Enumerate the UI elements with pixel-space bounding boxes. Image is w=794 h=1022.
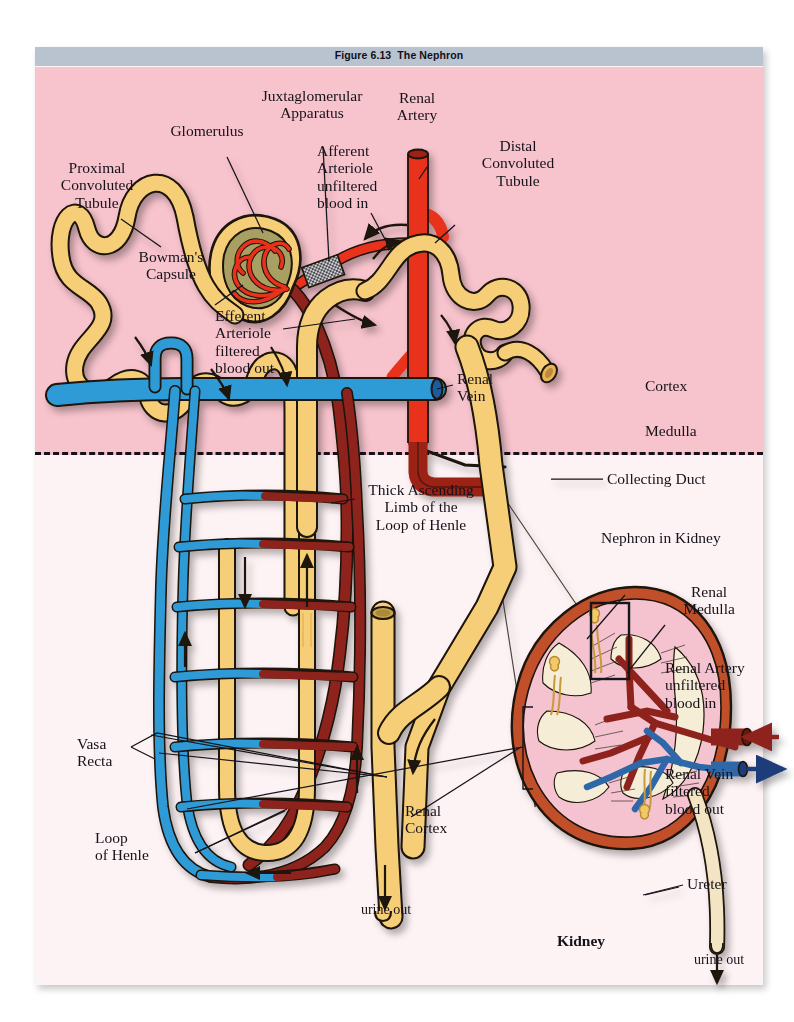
figure-title: Figure 6.13 The Nephron bbox=[35, 49, 763, 61]
figure-page: Figure 6.13 The Nephron bbox=[0, 0, 794, 1022]
label-renal-cortex: Renal Cortex bbox=[405, 802, 485, 837]
label-ureter: Ureter bbox=[687, 875, 767, 892]
label-collecting-duct: Collecting Duct bbox=[607, 470, 747, 487]
label-renal-medulla: Renal Medulla bbox=[663, 583, 755, 618]
label-kidney-renal-artery: Renal Artery unfiltered blood in bbox=[665, 659, 775, 711]
label-bowmans-capsule: Bowman's Capsule bbox=[115, 248, 227, 283]
label-nephron-in-kidney: Nephron in Kidney bbox=[601, 529, 771, 546]
label-glomerulus: Glomerulus bbox=[143, 122, 271, 139]
label-loop-of-henle: Loop of Henle bbox=[95, 829, 187, 864]
label-thick-ascending-limb: Thick Ascending Limb of the Loop of Henl… bbox=[347, 481, 495, 533]
figure-number: Figure 6.13 bbox=[335, 49, 392, 61]
label-kidney-caption: Kidney bbox=[531, 932, 631, 949]
figure-title-text: The Nephron bbox=[397, 49, 463, 61]
label-efferent-arteriole: Efferent Arteriole filtered blood out bbox=[215, 307, 325, 376]
label-distal-convoluted-tubule: Distal Convoluted Tubule bbox=[453, 137, 583, 189]
label-renal-vein: Renal Vein bbox=[457, 370, 529, 405]
label-renal-artery: Renal Artery bbox=[371, 89, 463, 124]
label-kidney-renal-vein: Renal Vein filtered blood out bbox=[665, 765, 775, 817]
label-proximal-convoluted-tubule: Proximal Convoluted Tubule bbox=[35, 159, 159, 211]
label-cortex: Cortex bbox=[645, 377, 735, 394]
cortex-medulla-divider bbox=[35, 452, 763, 455]
label-afferent-arteriole: Afferent Arteriole unfiltered blood in bbox=[317, 142, 413, 211]
label-vasa-recta: Vasa Recta bbox=[77, 735, 157, 770]
figure-title-bar: Figure 6.13 The Nephron bbox=[35, 47, 763, 66]
figure-panel: Figure 6.13 The Nephron bbox=[35, 47, 763, 985]
label-urine-out-nephron: urine out bbox=[340, 902, 432, 918]
label-urine-out-kidney: urine out bbox=[673, 952, 765, 968]
label-medulla: Medulla bbox=[645, 422, 741, 439]
